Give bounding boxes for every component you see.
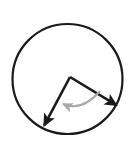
geometry-figure-svg (0, 0, 135, 151)
geometry-figure-container: Inscribed angle in a circle A circle wit… (0, 0, 135, 151)
figure-background (0, 0, 135, 151)
